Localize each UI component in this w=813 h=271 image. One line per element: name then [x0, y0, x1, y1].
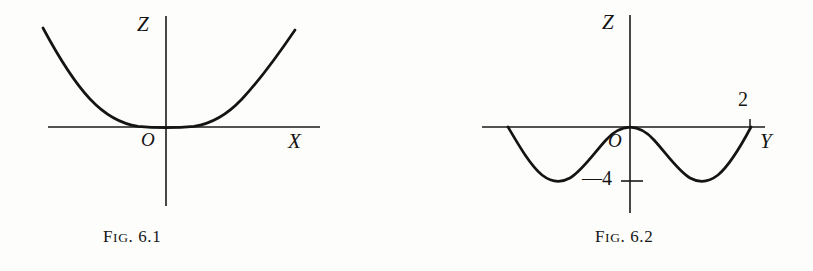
caption-number: . 6.1 — [129, 227, 162, 246]
axis-label-z: Z — [137, 14, 149, 35]
tick-label-2: 2 — [738, 89, 748, 109]
origin-label-o: O — [141, 130, 155, 149]
caption-smallcaps: IG — [605, 230, 620, 245]
axis-label-z: Z — [602, 12, 614, 33]
caption-smallcaps: IG — [113, 230, 128, 245]
caption-number: . 6.2 — [621, 227, 654, 246]
figure-6-2: Z Y O 2 —4 FIG. 6.2 — [400, 0, 813, 271]
axis-label-y: Y — [760, 131, 772, 152]
caption-initial: F — [103, 227, 113, 246]
curve-quartic-x4 — [43, 28, 295, 128]
axis-label-x: X — [288, 131, 301, 152]
origin-label-o: O — [608, 131, 622, 150]
figure-caption: FIG. 6.2 — [595, 227, 653, 247]
figure-page: Z X O FIG. 6.1 Z Y O 2 —4 FIG. 6.2 — [0, 0, 813, 271]
caption-initial: F — [595, 227, 605, 246]
figure-caption: FIG. 6.1 — [103, 227, 161, 247]
figure-6-1-plot — [0, 0, 400, 271]
tick-label-neg-4: —4 — [582, 168, 612, 188]
figure-6-1: Z X O FIG. 6.1 — [0, 0, 400, 271]
